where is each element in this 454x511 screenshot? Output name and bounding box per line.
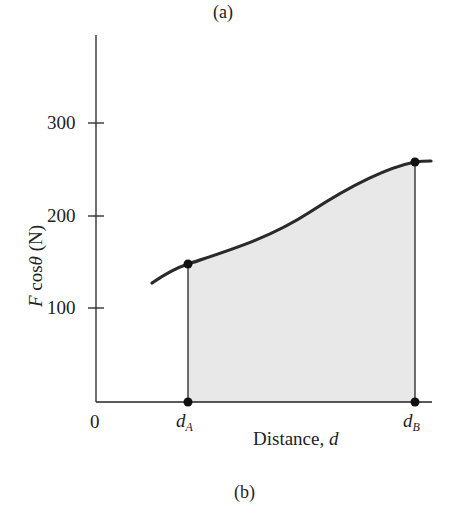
xlabel-text: Distance,: [253, 428, 329, 449]
work-graph: [0, 0, 454, 511]
x-mark-dB: dB: [403, 410, 420, 435]
x-mark-dA: dA: [176, 410, 193, 435]
marker-dB-axis: [411, 398, 420, 407]
ytick-label-300: 300: [47, 112, 76, 134]
ylabel-theta: θ: [25, 256, 46, 265]
caption-b: (b): [234, 482, 255, 503]
ylabel-unit: (N): [25, 225, 46, 256]
dB-sub: B: [413, 420, 420, 434]
ylabel-cos: cos: [25, 265, 46, 295]
marker-dA-curve: [184, 260, 193, 269]
origin-label: 0: [90, 411, 100, 433]
marker-dB-curve: [411, 158, 420, 167]
x-axis-label: Distance, d: [253, 428, 338, 450]
marker-dA-axis: [184, 398, 193, 407]
dA-var: d: [176, 410, 186, 431]
ylabel-var: F: [25, 295, 46, 307]
ytick-label-200: 200: [47, 205, 76, 227]
dA-sub: A: [186, 420, 193, 434]
shaded-area: [188, 162, 415, 402]
dB-var: d: [403, 410, 413, 431]
xlabel-var: d: [329, 428, 339, 449]
y-axis-label: F cosθ (N): [25, 196, 47, 336]
ytick-label-100: 100: [47, 297, 76, 319]
